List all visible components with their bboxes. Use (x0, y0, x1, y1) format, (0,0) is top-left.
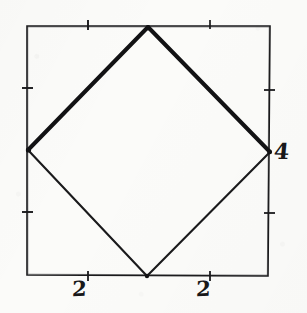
outer-square-overdraw (28, 27, 269, 275)
geometry-figure (0, 0, 307, 313)
vertex-bottom-marker (145, 274, 149, 278)
length-label-bottom-right: 2 (196, 278, 212, 300)
outer-square (27, 26, 270, 276)
inscribed-edge-bottom-left (28, 150, 147, 276)
vertex-left-marker (26, 147, 31, 152)
length-label-right-side: 4 (273, 140, 290, 162)
vertex-top-marker (146, 26, 151, 31)
inscribed-edge-top-right (148, 27, 270, 152)
figure-canvas: 2 2 4 (0, 0, 307, 313)
length-label-bottom-left: 2 (72, 278, 88, 300)
inscribed-edge-bottom-right (147, 152, 270, 276)
inscribed-edge-top-left (28, 27, 148, 150)
vertex-right-marker (267, 150, 272, 155)
